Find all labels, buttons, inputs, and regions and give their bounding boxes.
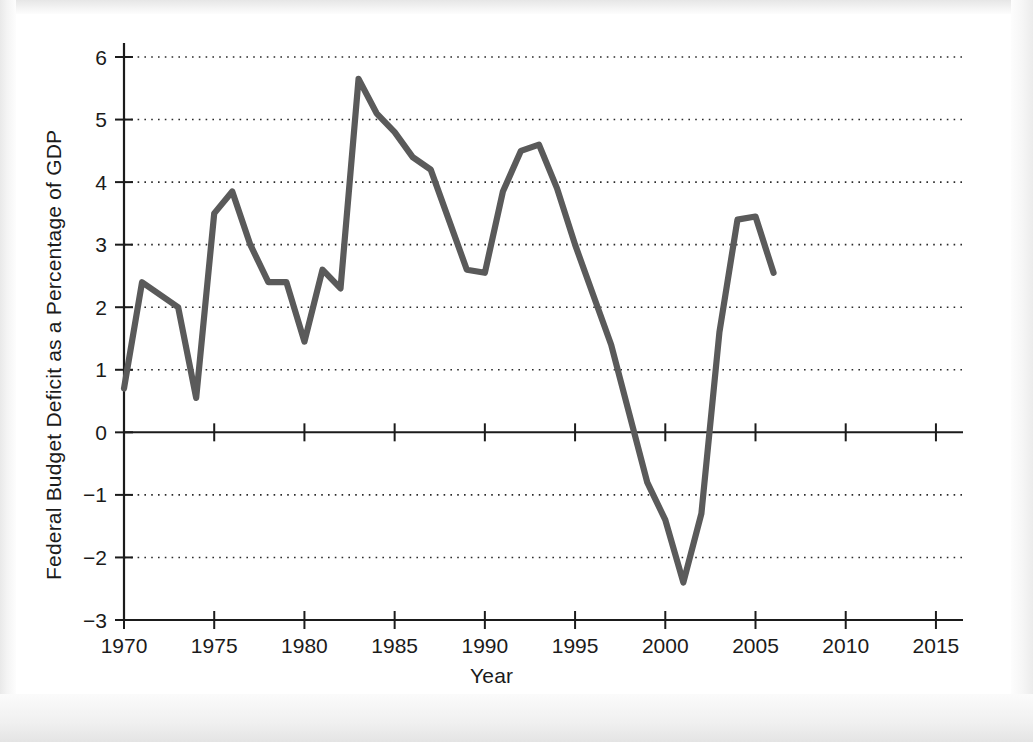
- x-tick-label: 2010: [822, 634, 869, 657]
- y-tick-label: 0: [95, 421, 107, 444]
- y-tick-label: 6: [95, 46, 107, 69]
- y-tick-label: 5: [95, 108, 107, 131]
- x-tick-label: 1970: [101, 634, 148, 657]
- y-axis-title: Federal Budget Deficit as a Percentage o…: [42, 130, 66, 580]
- y-tick-label: 2: [95, 296, 107, 319]
- line-chart-figure: −3−2−10123456197019751980198519901995200…: [0, 0, 1033, 742]
- y-tick-label: −2: [83, 546, 107, 569]
- x-tick-label: 1990: [462, 634, 509, 657]
- y-tick-label: −1: [83, 483, 107, 506]
- x-tick-label: 2005: [732, 634, 779, 657]
- y-tick-label: −3: [83, 609, 107, 632]
- figure-page: −3−2−10123456197019751980198519901995200…: [0, 0, 1033, 742]
- axes: [124, 43, 963, 620]
- x-tick-label: 2000: [642, 634, 689, 657]
- x-tick-label: 2015: [913, 634, 960, 657]
- tick-labels: −3−2−10123456197019751980198519901995200…: [83, 46, 959, 658]
- tick-marks: [115, 57, 936, 629]
- data-line: [124, 79, 774, 583]
- data-series: [124, 79, 774, 583]
- x-tick-label: 1995: [552, 634, 599, 657]
- y-tick-label: 3: [95, 233, 107, 256]
- gridlines: [124, 57, 963, 557]
- y-tick-label: 4: [95, 171, 107, 194]
- x-tick-label: 1980: [281, 634, 328, 657]
- chart-canvas: −3−2−10123456197019751980198519901995200…: [0, 0, 1033, 742]
- x-axis-title: Year: [470, 664, 513, 688]
- y-tick-label: 1: [95, 358, 107, 381]
- x-tick-label: 1975: [191, 634, 238, 657]
- x-tick-label: 1985: [371, 634, 418, 657]
